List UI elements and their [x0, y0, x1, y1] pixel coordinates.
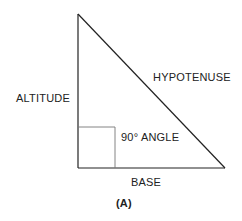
- altitude-label: ALTITUDE: [16, 93, 70, 104]
- hypotenuse-label: HYPOTENUSE: [153, 72, 231, 83]
- triangle-diagram: [0, 0, 242, 221]
- base-label: BASE: [131, 177, 161, 188]
- right-angle-label: 90° ANGLE: [121, 132, 179, 143]
- right-angle-marker: [78, 127, 115, 168]
- hypotenuse-side: [78, 14, 225, 168]
- figure-caption: (A): [116, 198, 132, 209]
